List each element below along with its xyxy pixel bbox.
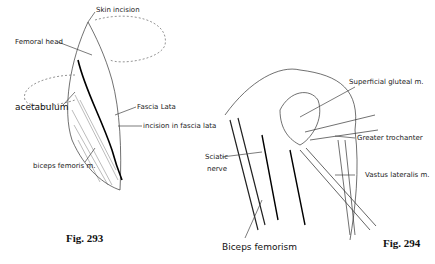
anatomical-illustrations bbox=[0, 0, 435, 264]
caption-fig-293: Fig. 293 bbox=[66, 232, 103, 244]
fig-294-drawing bbox=[222, 69, 378, 240]
label-biceps-femorism: Biceps femorism bbox=[222, 242, 297, 252]
label-vastus-lateralis: Vastus lateralis m. bbox=[365, 171, 430, 179]
label-fascia-lata: Fascia Lata bbox=[137, 103, 176, 111]
label-femoral-head: Femoral head bbox=[15, 38, 63, 46]
label-incision-fascia-lata: incision in fascia lata bbox=[143, 122, 216, 130]
label-nerve: nerve bbox=[207, 165, 227, 173]
label-sciatic: Sciatic bbox=[205, 153, 228, 161]
caption-fig-294: Fig. 294 bbox=[383, 237, 420, 249]
label-superficial-gluteal: Superficial gluteal m. bbox=[349, 78, 424, 86]
label-greater-trochanter: Greater trochanter bbox=[357, 134, 423, 142]
label-acetabulum: acetabulum bbox=[15, 102, 68, 112]
label-biceps-femoris: biceps femoris m. bbox=[33, 162, 95, 170]
label-skin-incision: Skin incision bbox=[96, 6, 140, 14]
